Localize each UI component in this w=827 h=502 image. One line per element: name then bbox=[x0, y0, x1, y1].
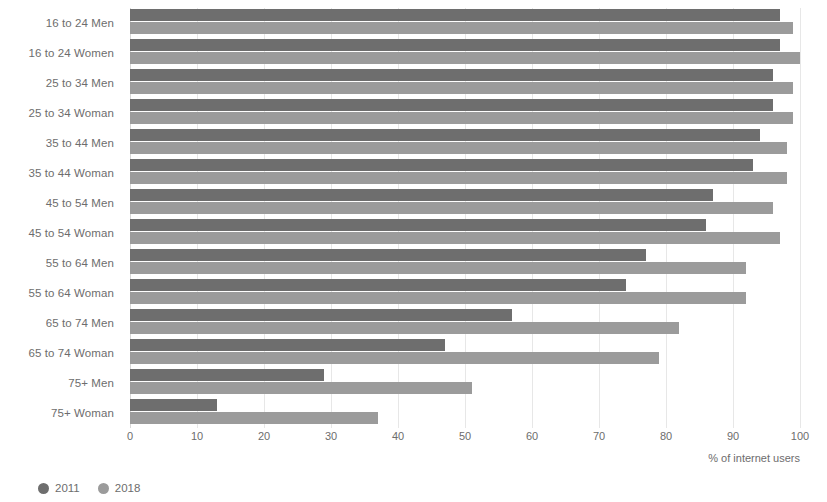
x-tick-label: 10 bbox=[191, 430, 203, 442]
bar-2018 bbox=[130, 292, 746, 304]
bar-groups bbox=[130, 8, 800, 428]
bar-group bbox=[130, 398, 800, 428]
category-label: 25 to 34 Men bbox=[0, 68, 122, 98]
bar-2011 bbox=[130, 309, 512, 321]
bar-2011 bbox=[130, 189, 713, 201]
bar-2011 bbox=[130, 249, 646, 261]
category-label: 16 to 24 Men bbox=[0, 8, 122, 38]
legend-label: 2018 bbox=[115, 482, 141, 494]
x-tick-label: 90 bbox=[727, 430, 739, 442]
bar-group bbox=[130, 278, 800, 308]
bar-2018 bbox=[130, 112, 793, 124]
x-axis-title: % of internet users bbox=[708, 452, 800, 464]
bar-group bbox=[130, 188, 800, 218]
bar-2011 bbox=[130, 69, 773, 81]
bar-2011 bbox=[130, 9, 780, 21]
category-label: 35 to 44 Men bbox=[0, 128, 122, 158]
x-tick-label: 60 bbox=[526, 430, 538, 442]
bar-2011 bbox=[130, 339, 445, 351]
bar-group bbox=[130, 158, 800, 188]
category-label: 65 to 74 Men bbox=[0, 308, 122, 338]
x-tick-label: 50 bbox=[459, 430, 471, 442]
bar-2018 bbox=[130, 22, 793, 34]
bar-group bbox=[130, 368, 800, 398]
bar-2011 bbox=[130, 39, 780, 51]
category-label: 45 to 54 Woman bbox=[0, 218, 122, 248]
x-tick-label: 0 bbox=[127, 430, 133, 442]
category-label: 45 to 54 Men bbox=[0, 188, 122, 218]
bar-2018 bbox=[130, 262, 746, 274]
category-axis-labels: 16 to 24 Men16 to 24 Women25 to 34 Men25… bbox=[0, 8, 122, 428]
bar-2018 bbox=[130, 352, 659, 364]
bar-group bbox=[130, 248, 800, 278]
category-label: 65 to 74 Woman bbox=[0, 338, 122, 368]
x-tick-label: 100 bbox=[791, 430, 809, 442]
x-axis-ticks: 0102030405060708090100 bbox=[130, 430, 800, 450]
bar-2018 bbox=[130, 82, 793, 94]
bar-group bbox=[130, 308, 800, 338]
x-tick-label: 80 bbox=[660, 430, 672, 442]
bar-group bbox=[130, 98, 800, 128]
bar-group bbox=[130, 218, 800, 248]
bar-2011 bbox=[130, 159, 753, 171]
category-label: 16 to 24 Women bbox=[0, 38, 122, 68]
legend: 20112018 bbox=[38, 482, 140, 494]
bar-group bbox=[130, 8, 800, 38]
bar-2018 bbox=[130, 172, 787, 184]
bar-group bbox=[130, 338, 800, 368]
bar-chart: 16 to 24 Men16 to 24 Women25 to 34 Men25… bbox=[0, 0, 827, 502]
bar-2018 bbox=[130, 322, 679, 334]
gridline bbox=[800, 8, 801, 428]
bar-2011 bbox=[130, 129, 760, 141]
bar-2011 bbox=[130, 279, 626, 291]
plot-area bbox=[130, 8, 800, 428]
x-tick-label: 20 bbox=[258, 430, 270, 442]
bar-group bbox=[130, 68, 800, 98]
bar-2018 bbox=[130, 52, 800, 64]
category-label: 25 to 34 Woman bbox=[0, 98, 122, 128]
bar-2011 bbox=[130, 369, 324, 381]
x-tick-label: 70 bbox=[593, 430, 605, 442]
bar-2011 bbox=[130, 219, 706, 231]
legend-label: 2011 bbox=[55, 482, 80, 494]
bar-group bbox=[130, 128, 800, 158]
category-label: 55 to 64 Men bbox=[0, 248, 122, 278]
x-tick-label: 40 bbox=[392, 430, 404, 442]
bar-2018 bbox=[130, 412, 378, 424]
bar-2018 bbox=[130, 382, 472, 394]
category-label: 35 to 44 Woman bbox=[0, 158, 122, 188]
bar-2011 bbox=[130, 99, 773, 111]
legend-item[interactable]: 2011 bbox=[38, 482, 80, 494]
x-tick-label: 30 bbox=[325, 430, 337, 442]
bar-2011 bbox=[130, 399, 217, 411]
legend-swatch-icon bbox=[98, 483, 109, 494]
bar-2018 bbox=[130, 142, 787, 154]
bar-2018 bbox=[130, 232, 780, 244]
category-label: 75+ Woman bbox=[0, 398, 122, 428]
legend-item[interactable]: 2018 bbox=[98, 482, 141, 494]
bar-group bbox=[130, 38, 800, 68]
bar-2018 bbox=[130, 202, 773, 214]
legend-swatch-icon bbox=[38, 483, 49, 494]
category-label: 75+ Men bbox=[0, 368, 122, 398]
category-label: 55 to 64 Woman bbox=[0, 278, 122, 308]
